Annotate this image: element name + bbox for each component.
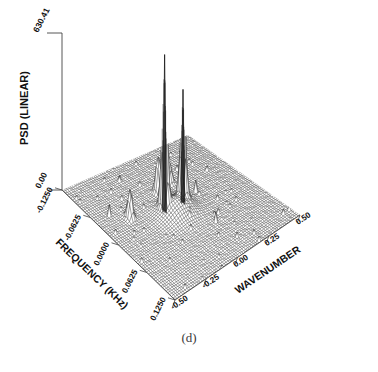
z-axis-title: PSD (LINEAR) [18, 71, 30, 145]
figure-caption: (d) [0, 330, 378, 346]
psd-plot-svg: 630.41 0.00 PSD (LINEAR) FREQUENCY (KHz)… [0, 0, 378, 372]
psd-3d-surface-figure: 630.41 0.00 PSD (LINEAR) FREQUENCY (KHz)… [0, 0, 378, 372]
